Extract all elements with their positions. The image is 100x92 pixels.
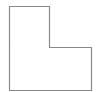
diagram-canvas — [0, 0, 100, 92]
l-shape-outline — [10, 7, 92, 91]
